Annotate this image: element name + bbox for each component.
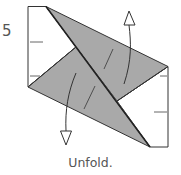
- origami-diagram: [0, 0, 181, 175]
- step-caption: Unfold.: [0, 155, 181, 170]
